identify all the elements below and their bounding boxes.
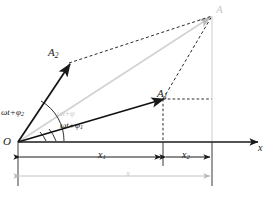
resultant-label-text: A [216,3,223,15]
angle-phi2-label-sub: 2 [21,111,24,117]
vector-diagram-svg [0,0,272,197]
projection-x-total-label: x [126,169,130,178]
angle-phi1-label: ωt+φ1 [60,121,83,130]
resultant-label: A [216,4,223,15]
parallelogram-side-a2-apex [69,16,212,63]
angle-phi-label-text: ωt+φ [57,109,75,118]
parallelogram-side-a1-apex [163,16,212,99]
vector-a1-label-text: A [157,87,164,99]
projection-x1-label-sub: 1 [102,153,105,160]
vector-a2-label-sub: 2 [55,51,59,60]
vector-a1-label: A1 [157,88,167,100]
projection-x2-label-sub: 2 [186,153,189,160]
projection-x-total-label-text: x [126,168,130,178]
angle-phi-label: ωt+φ [57,110,75,118]
angle-phi2-label-text: ωt+φ [1,107,21,117]
origin-label: O [3,136,11,147]
figure-canvas: O x A2 A1 A ωt+φ2 ωt+φ1 ωt+φ x1 x2 x [0,0,272,197]
angle-phi1-label-sub: 1 [80,124,83,130]
projection-x2-label: x2 [182,150,190,161]
vector-a1 [18,99,164,142]
vector-a2-label-text: A [48,46,55,58]
vector-a1-label-sub: 1 [164,92,168,101]
angle-phi1-label-text: ωt+φ [60,120,80,130]
x-axis-label: x [258,143,262,153]
resultant-vector [18,18,210,143]
vector-a2-label: A2 [48,47,58,59]
projection-x1-label: x1 [98,150,106,161]
angle-phi2-label: ωt+φ2 [1,108,24,117]
